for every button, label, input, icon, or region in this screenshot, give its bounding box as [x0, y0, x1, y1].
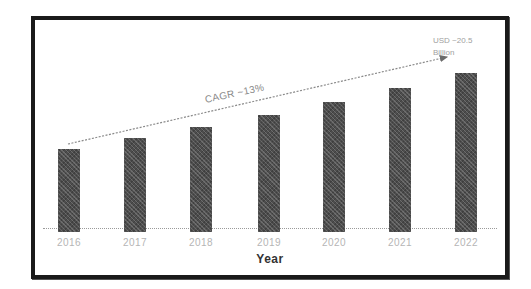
- end-value-annotation: USD ~20.5 Billion: [433, 35, 472, 59]
- end-value-line2: Billion: [433, 47, 472, 59]
- plot-area: 2016 2017 2018 2019 2020 2021 2022 Year …: [35, 20, 505, 275]
- chart-frame: 2016 2017 2018 2019 2020 2021 2022 Year …: [31, 16, 509, 279]
- end-value-line1: USD ~20.5: [433, 35, 472, 47]
